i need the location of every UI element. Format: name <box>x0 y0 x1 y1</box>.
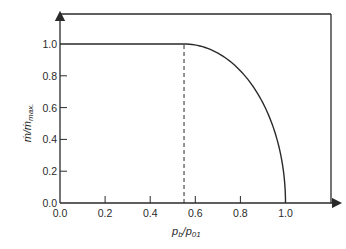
y-axis-label: ṁ/ṁmax. <box>21 104 35 143</box>
plot-frame <box>60 14 337 203</box>
y-tick-label: 0.4 <box>42 133 57 145</box>
y-tick-label: 1.0 <box>42 38 57 50</box>
data-series <box>60 44 286 203</box>
x-tick-label: 0.6 <box>188 207 203 219</box>
y-tick-label: 0.2 <box>42 165 57 177</box>
axis-ticks <box>60 76 286 203</box>
x-axis-label: pb/p01 <box>171 225 201 239</box>
x-tick-label: 0.2 <box>98 207 113 219</box>
y-tick-label: 0.6 <box>42 102 57 114</box>
y-tick-label: 0.0 <box>42 197 57 209</box>
x-tick-label: 0.8 <box>233 207 248 219</box>
x-tick-label: 1.0 <box>278 207 293 219</box>
chart: 0.00.20.40.60.81.00.00.20.40.60.81.0 pb/… <box>0 0 346 249</box>
tick-labels: 0.00.20.40.60.81.00.00.20.40.60.81.0 <box>42 38 293 219</box>
x-tick-label: 0.4 <box>143 207 158 219</box>
mass-flow-curve <box>60 44 286 203</box>
y-tick-label: 0.8 <box>42 70 57 82</box>
